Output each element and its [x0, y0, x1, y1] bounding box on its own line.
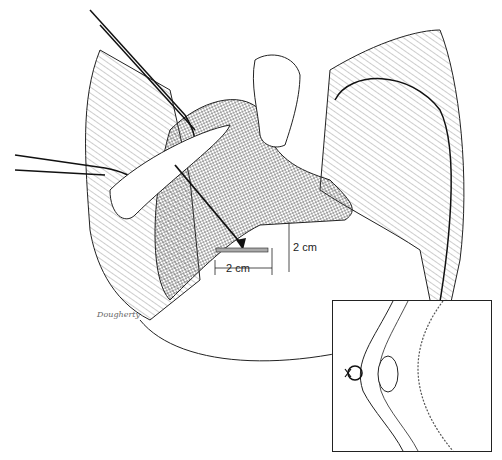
inset-drawing	[333, 301, 491, 451]
inset-mucosa	[418, 301, 453, 451]
detail-inset	[332, 300, 492, 452]
central-structure	[253, 55, 300, 147]
central-tissue	[155, 100, 352, 300]
patch-graphic	[216, 248, 268, 252]
dimension-height-label: 2 cm	[293, 241, 317, 253]
suture-knot-icon	[348, 366, 362, 380]
illustration-canvas: 2 cm 2 cm Dougherty	[0, 0, 502, 460]
inset-oval	[378, 356, 398, 392]
artist-signature: Dougherty	[97, 310, 140, 319]
dimension-width-label: 2 cm	[226, 262, 250, 274]
